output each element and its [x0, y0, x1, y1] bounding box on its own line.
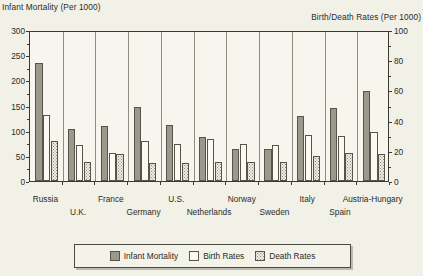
left-tick-label: 250: [0, 51, 25, 61]
left-tick-label: 50: [0, 152, 25, 162]
left-tick-label: 100: [0, 127, 25, 137]
bar-death-rates: [247, 162, 254, 181]
right-minor-tick: [389, 137, 391, 138]
bar-infant-mortality: [363, 91, 370, 181]
bar-birth-rates: [207, 139, 214, 181]
legend-label: Birth Rates: [203, 251, 244, 261]
left-minor-tick: [27, 144, 29, 145]
bar-group: [259, 32, 292, 181]
left-minor-tick: [27, 119, 29, 120]
bar-infant-mortality: [101, 126, 108, 181]
bar-birth-rates: [109, 153, 116, 181]
bar-death-rates: [182, 163, 189, 181]
left-minor-tick: [27, 94, 29, 95]
left-tick-mark: [26, 81, 29, 82]
category-label-italy: Italy: [300, 194, 315, 204]
legend-swatch-icon: [110, 251, 120, 261]
legend-item[interactable]: Death Rates: [255, 251, 315, 261]
category-label-u-s-: U.S.: [168, 194, 184, 204]
category-label-germany: Germany: [126, 207, 160, 217]
left-axis-title: Infant Mortality (Per 1000): [2, 2, 101, 12]
bar-group: [63, 32, 96, 181]
bar-infant-mortality: [232, 149, 239, 181]
category-label-norway: Norway: [228, 194, 256, 204]
category-label-u-k-: U.K.: [70, 207, 86, 217]
left-tick-mark: [26, 31, 29, 32]
category-label-sweden: Sweden: [259, 207, 289, 217]
bar-group: [357, 32, 390, 181]
left-minor-tick: [27, 169, 29, 170]
legend-swatch-icon: [189, 251, 199, 261]
right-tick-mark: [389, 31, 392, 32]
bar-birth-rates: [370, 132, 377, 181]
chart-root: Infant Mortality (Per 1000) Birth/Death …: [0, 0, 423, 276]
right-tick-label: 0: [394, 177, 420, 187]
bar-infant-mortality: [297, 116, 304, 181]
bar-death-rates: [215, 162, 222, 181]
bar-group: [226, 32, 259, 181]
left-tick-label: 200: [0, 76, 25, 86]
bar-infant-mortality: [68, 129, 75, 181]
bar-group: [128, 32, 161, 181]
legend-item[interactable]: Birth Rates: [189, 251, 244, 261]
bar-death-rates: [116, 154, 123, 181]
bar-group: [161, 32, 194, 181]
bar-group: [194, 32, 227, 181]
x-tick-mark: [160, 182, 161, 185]
right-minor-tick: [389, 76, 391, 77]
x-tick-mark: [324, 182, 325, 185]
bar-death-rates: [51, 141, 58, 181]
right-tick-mark: [389, 61, 392, 62]
bar-death-rates: [84, 162, 91, 181]
category-label-france: France: [98, 194, 124, 204]
left-tick-label: 300: [0, 26, 25, 36]
bars-layer: [30, 32, 388, 181]
bar-infant-mortality: [330, 108, 337, 182]
left-tick-mark: [26, 107, 29, 108]
right-axis-title: Birth/Death Rates (Per 1000): [311, 12, 421, 22]
left-tick-label: 150: [0, 102, 25, 112]
bar-birth-rates: [76, 145, 83, 181]
bar-group: [95, 32, 128, 181]
chart-legend: Infant MortalityBirth RatesDeath Rates: [74, 244, 351, 268]
bar-birth-rates: [240, 144, 247, 181]
bar-group: [325, 32, 358, 181]
bar-infant-mortality: [35, 63, 42, 181]
right-tick-label: 40: [394, 117, 420, 127]
right-tick-mark: [389, 122, 392, 123]
right-tick-mark: [389, 152, 392, 153]
right-tick-label: 80: [394, 56, 420, 66]
left-tick-mark: [26, 132, 29, 133]
left-minor-tick: [27, 69, 29, 70]
bar-death-rates: [149, 163, 156, 181]
left-tick-label: 0: [0, 177, 25, 187]
x-tick-mark: [127, 182, 128, 185]
x-tick-mark: [225, 182, 226, 185]
bar-birth-rates: [174, 144, 181, 181]
x-tick-mark: [94, 182, 95, 185]
right-minor-tick: [389, 46, 391, 47]
legend-label: Death Rates: [269, 251, 315, 261]
legend-item[interactable]: Infant Mortality: [110, 251, 178, 261]
right-tick-label: 20: [394, 147, 420, 157]
left-tick-mark: [26, 182, 29, 183]
bar-death-rates: [345, 153, 352, 181]
x-tick-mark: [62, 182, 63, 185]
bar-group: [30, 32, 63, 181]
bar-birth-rates: [272, 145, 279, 181]
category-label-austria-hungary: Austria-Hungary: [343, 194, 403, 204]
bar-group: [292, 32, 325, 181]
x-tick-mark: [356, 182, 357, 185]
left-tick-mark: [26, 157, 29, 158]
category-label-russia: Russia: [33, 194, 58, 204]
bar-birth-rates: [43, 115, 50, 181]
bar-infant-mortality: [264, 149, 271, 181]
right-minor-tick: [389, 107, 391, 108]
right-minor-tick: [389, 167, 391, 168]
bar-birth-rates: [338, 136, 345, 181]
left-tick-mark: [26, 56, 29, 57]
x-tick-mark: [389, 182, 390, 185]
right-tick-label: 100: [394, 26, 420, 36]
category-label-spain: Spain: [329, 207, 350, 217]
bar-death-rates: [378, 154, 385, 181]
